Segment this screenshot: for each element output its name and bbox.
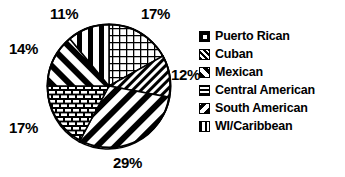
legend-label-central-american: Central American	[215, 84, 315, 97]
pie-label-central-american: 17%	[9, 120, 38, 135]
legend-item-puerto-rican[interactable]: Puerto Rican	[199, 27, 345, 45]
legend-label-puerto-rican: Puerto Rican	[215, 30, 290, 43]
legend-label-mexican: Mexican	[215, 66, 263, 79]
legend-label-cuban: Cuban	[215, 48, 253, 61]
legend-item-mexican[interactable]: Mexican	[199, 63, 345, 81]
vertical-stripes-swatch-icon	[199, 121, 210, 132]
legend-item-cuban[interactable]: Cuban	[199, 45, 345, 63]
pie-label-wi-caribbean: 11%	[50, 6, 78, 21]
pie-chart: 11% 14% 17% 29% 17% 12% Puerto Rican Cub…	[0, 0, 345, 177]
pie-label-puerto-rican: 17%	[141, 6, 170, 21]
brick-swatch-icon	[199, 85, 210, 96]
legend-label-wi-caribbean: WI/Caribbean	[215, 120, 292, 133]
legend-label-south-american: South American	[215, 102, 308, 115]
dense-diagonal-hatch-swatch-icon	[199, 49, 210, 60]
legend-item-wi-caribbean[interactable]: WI/Caribbean	[199, 117, 345, 135]
grid-crosshatch-swatch-icon	[199, 31, 210, 42]
wide-diagonal-stripes-swatch-icon	[199, 67, 210, 78]
back-diagonal-stripes-swatch-icon	[199, 103, 210, 114]
legend: Puerto Rican Cuban Mexican Central Ameri…	[199, 27, 345, 135]
legend-item-south-american[interactable]: South American	[199, 99, 345, 117]
pie-label-south-american: 14%	[9, 41, 38, 56]
pie-svg	[0, 0, 185, 177]
pie-graphic: 11% 14% 17% 29% 17%	[0, 0, 185, 177]
pie-label-cuban: 12%	[171, 67, 200, 82]
pie-label-mexican: 29%	[113, 155, 142, 170]
legend-item-central-american[interactable]: Central American	[199, 81, 345, 99]
